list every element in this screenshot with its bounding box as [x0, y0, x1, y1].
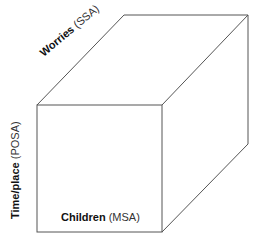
axis-label-children: Children (MSA) [61, 212, 140, 223]
axis-label-time-place: Time/place (POSA) [10, 121, 21, 219]
cube-side-face [162, 15, 248, 232]
cube-diagram: Worries (SSA) Time/place (POSA) Children… [0, 0, 260, 246]
axis-label-abbrev: (MSA) [109, 211, 140, 223]
axis-label-abbrev: (POSA) [9, 121, 21, 159]
axis-label-text: Time/place [9, 162, 21, 219]
cube-drawing [0, 0, 260, 246]
axis-label-text: Children [61, 211, 106, 223]
